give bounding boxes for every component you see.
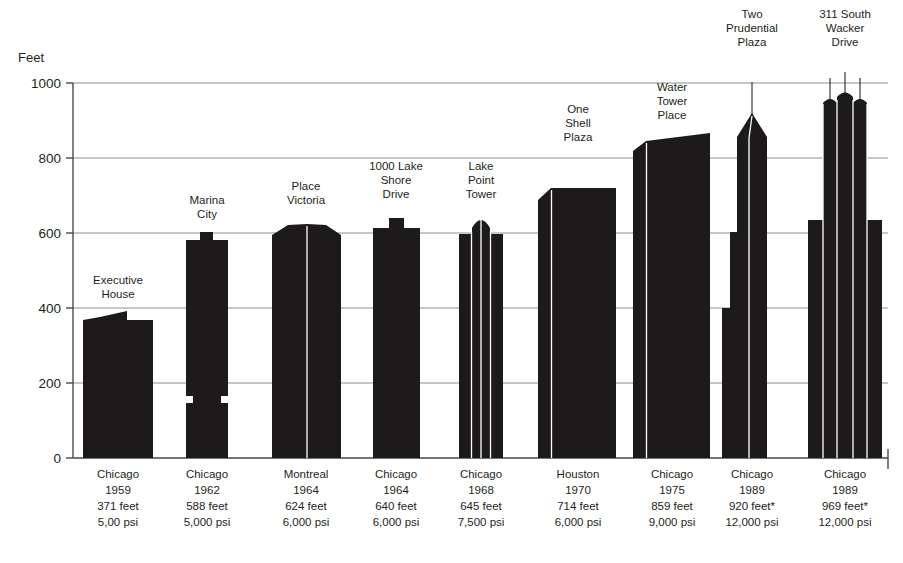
building-name-line: Shell — [565, 117, 591, 129]
building-name-line: Executive — [93, 274, 143, 286]
column-data-311-south-wacker-drive: Chicago 1989 969 feet* 12,000 psi — [818, 468, 871, 528]
building-name-line: Tower — [466, 188, 497, 200]
column-psi: 12,000 psi — [725, 516, 778, 528]
y-tick-label-1000: 1000 — [31, 76, 61, 91]
building-shape-marina-city — [186, 232, 228, 458]
building-name-1000-lake-shore-drive: 1000 Lake Shore Drive — [369, 160, 423, 200]
column-height: 920 feet* — [729, 500, 776, 512]
column-data-water-tower-place: Chicago 1975 859 feet 9,000 psi — [649, 468, 696, 528]
column-psi: 7,500 psi — [458, 516, 505, 528]
chart-canvas: Feet 1000 800 600 400 200 — [0, 0, 903, 563]
building-name-lake-point-tower: Lake Point Tower — [466, 160, 497, 200]
y-tick-label-400: 400 — [38, 301, 61, 316]
column-year: 1959 — [105, 484, 131, 496]
column-city: Montreal — [284, 468, 329, 480]
building-name-one-shell-plaza: One Shell Plaza — [564, 103, 593, 143]
column-year: 1962 — [194, 484, 220, 496]
column-height: 859 feet — [651, 500, 693, 512]
building-name-311-south-wacker-drive: 311 South Wacker Drive — [819, 8, 871, 48]
column-height: 371 feet — [97, 500, 139, 512]
column-data-1000-lake-shore-drive: Chicago 1964 640 feet 6,000 psi — [373, 468, 420, 528]
column-psi: 12,000 psi — [818, 516, 871, 528]
building-name-line: Lake — [469, 160, 494, 172]
y-axis-ticks — [66, 83, 73, 458]
building-height-chart: Feet 1000 800 600 400 200 — [0, 0, 903, 563]
building-name-line: Victoria — [287, 194, 326, 206]
column-data-place-victoria: Montreal 1964 624 feet 6,000 psi — [283, 468, 330, 528]
column-year: 1964 — [293, 484, 319, 496]
building-shape-one-shell-plaza — [538, 188, 616, 458]
building-name-line: Drive — [383, 188, 410, 200]
column-data-executive-house: Chicago 1959 371 feet 5,00 psi — [97, 468, 140, 528]
building-name-water-tower-place: Water Tower Place — [657, 81, 688, 121]
column-height: 645 feet — [460, 500, 502, 512]
building-name-line: Marina — [189, 194, 225, 206]
column-height: 640 feet — [375, 500, 417, 512]
column-year: 1964 — [383, 484, 409, 496]
building-name-line: Two — [741, 8, 762, 20]
column-psi: 6,000 psi — [373, 516, 420, 528]
building-name-line: Place — [658, 109, 687, 121]
column-city: Chicago — [186, 468, 228, 480]
y-tick-label-0: 0 — [53, 451, 61, 466]
column-psi: 9,000 psi — [649, 516, 696, 528]
column-psi: 5,000 psi — [184, 516, 231, 528]
column-data-marina-city: Chicago 1962 588 feet 5,000 psi — [184, 468, 231, 528]
building-name-line: Wacker — [826, 22, 865, 34]
building-name-line: House — [101, 288, 134, 300]
column-data-lake-point-tower: Chicago 1968 645 feet 7,500 psi — [458, 468, 505, 528]
building-name-place-victoria: Place Victoria — [287, 180, 326, 206]
y-axis-tick-labels: 1000 800 600 400 200 0 — [31, 76, 61, 466]
y-tick-label-600: 600 — [38, 226, 61, 241]
column-data-two-prudential-plaza: Chicago 1989 920 feet* 12,000 psi — [725, 468, 778, 528]
column-height: 588 feet — [186, 500, 228, 512]
column-psi: 6,000 psi — [283, 516, 330, 528]
building-name-two-prudential-plaza: Two Prudential Plaza — [726, 8, 778, 48]
building-name-line: 311 South — [819, 8, 871, 20]
building-name-line: Plaza — [564, 131, 593, 143]
column-city: Chicago — [731, 468, 773, 480]
building-name-line: Place — [292, 180, 321, 192]
building-shape-water-tower-place — [633, 133, 710, 458]
column-city: Chicago — [375, 468, 417, 480]
column-city: Chicago — [651, 468, 693, 480]
column-data-one-shell-plaza: Houston 1970 714 feet 6,000 psi — [555, 468, 602, 528]
y-tick-label-200: 200 — [38, 376, 61, 391]
column-city: Houston — [557, 468, 600, 480]
building-name-line: One — [567, 103, 589, 115]
column-psi: 5,00 psi — [98, 516, 138, 528]
column-height: 714 feet — [557, 500, 599, 512]
building-shape-311-south-wacker-drive — [808, 72, 882, 458]
column-city: Chicago — [460, 468, 502, 480]
building-name-line: Point — [468, 174, 495, 186]
building-name-line: Plaza — [738, 36, 767, 48]
building-shape-lake-point-tower — [459, 217, 503, 458]
column-city: Chicago — [97, 468, 139, 480]
column-year: 1975 — [659, 484, 685, 496]
building-shape-two-prudential-plaza — [722, 82, 767, 458]
building-name-line: Tower — [657, 95, 688, 107]
column-psi: 6,000 psi — [555, 516, 602, 528]
column-year: 1970 — [565, 484, 591, 496]
column-year: 1968 — [468, 484, 494, 496]
column-height: 969 feet* — [822, 500, 869, 512]
building-name-line: Shore — [381, 174, 412, 186]
building-name-line: Drive — [832, 36, 859, 48]
building-name-line: Prudential — [726, 22, 778, 34]
column-height: 624 feet — [285, 500, 327, 512]
building-shape-executive-house — [83, 311, 153, 458]
building-name-executive-house: Executive House — [93, 274, 143, 300]
building-name-marina-city: Marina City — [189, 194, 225, 220]
building-shape-place-victoria — [272, 224, 341, 458]
y-axis-title: Feet — [18, 50, 44, 65]
column-year: 1989 — [832, 484, 858, 496]
column-city: Chicago — [824, 468, 866, 480]
y-tick-label-800: 800 — [38, 151, 61, 166]
building-name-line: City — [197, 208, 217, 220]
building-name-line: 1000 Lake — [369, 160, 423, 172]
building-name-line: Water — [657, 81, 687, 93]
column-year: 1989 — [739, 484, 765, 496]
building-shape-1000-lake-shore-drive — [373, 218, 420, 458]
